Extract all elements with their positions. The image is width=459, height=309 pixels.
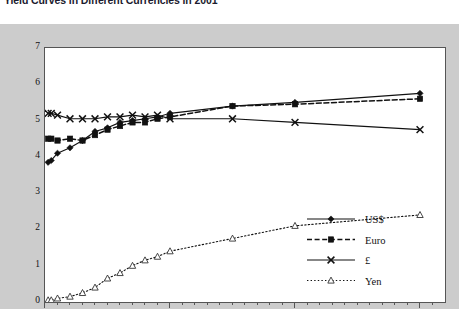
y-tick-label: 3: [28, 186, 40, 196]
y-tick-label: 0: [28, 295, 40, 305]
data-point: [130, 120, 135, 125]
data-point: [105, 127, 110, 132]
data-point: [230, 103, 235, 108]
data-point: [49, 136, 54, 141]
page-title: Yield Curves in Different Currencies in …: [4, 0, 217, 6]
chart-legend: US$Euro£Yen: [307, 214, 385, 287]
y-tick-label: 6: [28, 77, 40, 87]
data-point: [80, 138, 85, 143]
legend-label: £: [365, 255, 370, 266]
data-point: [55, 138, 60, 143]
chart-canvas: US$Euro£Yen: [45, 48, 445, 302]
data-point: [67, 136, 72, 141]
data-point: [292, 102, 297, 107]
data-point: [154, 253, 160, 259]
series-line: [48, 113, 420, 129]
y-tick-label: 4: [28, 150, 40, 160]
data-point: [117, 123, 122, 128]
data-point: [142, 120, 147, 125]
y-tick-label: 7: [28, 41, 40, 51]
y-tick-label: 2: [28, 222, 40, 232]
y-tick-label: 1: [28, 259, 40, 269]
data-point: [417, 212, 423, 218]
legend-marker: [328, 216, 334, 222]
data-point: [67, 145, 73, 151]
data-point: [92, 132, 97, 137]
data-point: [417, 96, 422, 101]
legend-label: US$: [365, 214, 384, 225]
data-point: [54, 112, 61, 119]
plot-area: US$Euro£Yen: [44, 47, 446, 303]
data-point: [92, 284, 98, 290]
legend-marker: [328, 237, 333, 242]
data-point: [104, 275, 110, 281]
data-point: [417, 90, 423, 96]
data-point: [67, 293, 73, 299]
legend-label: Euro: [365, 235, 385, 246]
y-tick-label: 5: [28, 114, 40, 124]
data-point: [117, 270, 123, 276]
legend-label: Yen: [365, 276, 382, 287]
title-band: Yield Curves in Different Currencies in …: [0, 0, 459, 24]
figure-panel: Yield (in %) Maturity (years) 01234567 0…: [0, 24, 459, 309]
